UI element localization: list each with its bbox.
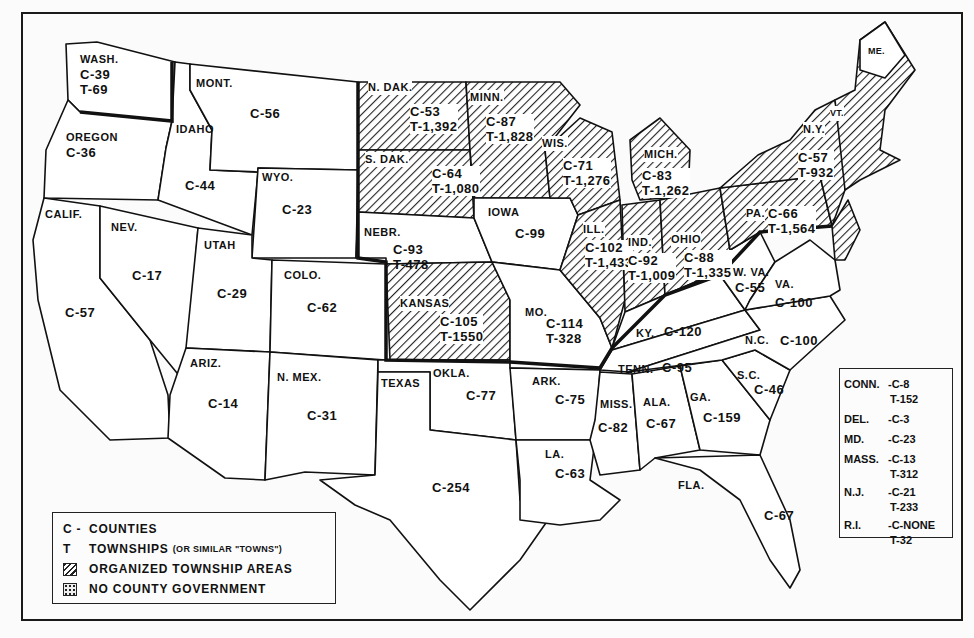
label-colo: COLO.	[284, 268, 321, 283]
label-ala: ALA.	[643, 395, 671, 410]
label-utah-count: C-29	[217, 286, 247, 301]
label-calif: CALIF.	[45, 207, 82, 222]
label-iowa-count: C-99	[515, 226, 545, 241]
label-fla: FLA.	[678, 478, 704, 493]
label-ark-count: C-75	[555, 392, 585, 407]
label-tenn-count: C-95	[662, 360, 692, 375]
label-ariz: ARIZ.	[190, 356, 221, 371]
label-ga: GA.	[690, 390, 711, 405]
label-nmex: N. MEX.	[277, 370, 321, 385]
label-kansas: KANSAS	[400, 296, 449, 311]
label-ndak: N. DAK.	[368, 80, 412, 95]
label-va: VA.	[775, 277, 794, 292]
label-vt: VT.	[830, 106, 844, 121]
label-minn-count: C-87T-1,828	[486, 114, 534, 144]
label-ny-count: C-57T-932	[798, 150, 834, 180]
label-nmex-count: C-31	[307, 408, 337, 423]
label-wva-count: C-55	[735, 280, 765, 295]
label-okla: OKLA.	[433, 366, 470, 381]
legend-counties: C -COUNTIES	[63, 519, 335, 539]
label-nebr: NEBR.	[364, 225, 401, 240]
label-ny: N.Y.	[803, 122, 825, 137]
label-idaho-count: C-44	[185, 178, 215, 193]
dotted-swatch-icon	[63, 583, 77, 596]
label-wash: WASH.C-39T-69	[80, 52, 119, 97]
label-mont-count: C-56	[250, 106, 280, 121]
label-mont: MONT.	[196, 76, 233, 91]
label-miss-count: C-82	[598, 420, 628, 435]
label-ark: ARK.	[532, 374, 561, 389]
label-wis: WIS.	[542, 136, 568, 151]
label-colo-count: C-62	[307, 300, 337, 315]
label-mich: MICH.	[644, 147, 678, 162]
label-nebr-count: C-93T-478	[393, 242, 429, 272]
label-minn: MINN.	[470, 90, 504, 105]
hatch-swatch-icon	[63, 563, 77, 576]
label-ga-count: C-159	[703, 410, 741, 425]
label-texas-count: C-254	[432, 480, 470, 495]
label-idaho: IDAHO	[176, 122, 214, 137]
label-ill: ILL.	[583, 222, 605, 237]
label-nc-count: C-100	[780, 333, 818, 348]
label-calif-count: C-57	[65, 305, 95, 320]
label-ala-count: C-67	[646, 416, 676, 431]
label-sc-count: C-46	[754, 382, 784, 397]
legend-townships: TTOWNSHIPS (OR SIMILAR "TOWNS")	[63, 539, 335, 559]
label-la: LA.	[545, 447, 564, 462]
label-fla-count: C-67	[764, 508, 794, 523]
label-mo-count: C-114T-328	[546, 316, 583, 346]
label-wva: W. VA.	[733, 265, 769, 280]
label-la-count: C-63	[555, 466, 585, 481]
label-wyo: WYO.	[262, 170, 293, 185]
legend-no-county-government: NO COUNTY GOVERNMENT	[63, 579, 335, 599]
label-nc: N.C.	[745, 333, 769, 348]
label-nev-count: C-17	[132, 268, 162, 283]
legend-organized-township-areas: ORGANIZED TOWNSHIP AREAS	[63, 559, 335, 579]
label-iowa: IOWA	[488, 205, 519, 220]
label-mich-count: C-83T-1,262	[642, 168, 690, 198]
label-pa: PA.	[746, 206, 765, 221]
label-ill-count: C-102T-1,433	[585, 240, 633, 270]
label-ky: KY.	[636, 326, 655, 341]
label-ohio-count: C-88T-1,335	[684, 250, 732, 280]
label-ariz-count: C-14	[208, 396, 238, 411]
label-pa-count: C-66T-1,564	[768, 206, 816, 236]
label-mo: MO.	[525, 305, 547, 320]
label-okla-count: C-77	[466, 388, 496, 403]
map-legend: C -COUNTIES TTOWNSHIPS (OR SIMILAR "TOWN…	[52, 512, 336, 604]
label-wis-count: C-71T-1,276	[563, 158, 611, 188]
label-sdak: S. DAK.	[365, 152, 409, 167]
label-miss: MISS.	[600, 397, 632, 412]
label-ohio: OHIO	[671, 232, 701, 247]
label-kansas-count: C-105T-1550	[440, 314, 483, 344]
label-ind-count: C-92T-1,009	[628, 253, 676, 283]
label-tenn: TENN.	[618, 362, 654, 377]
label-wyo-count: C-23	[282, 202, 312, 217]
label-utah: UTAH	[204, 238, 236, 253]
label-va-count: C-100	[775, 295, 813, 310]
label-nev: NEV.	[111, 220, 138, 235]
label-ndak-count: C-53T-1,392	[410, 104, 458, 134]
small-states-inset: CONN.- C-8 T-152 DEL.- C-3 MD.- C-23 MAS…	[839, 368, 953, 538]
label-ky-count: C-120	[664, 324, 702, 339]
label-texas: TEXAS	[381, 376, 420, 391]
label-sc: S.C.	[737, 368, 760, 383]
label-ind: IND.	[628, 235, 652, 250]
label-me: ME.	[868, 44, 885, 59]
label-sdak-count: C-64T-1,080	[432, 166, 480, 196]
label-oregon: OREGONC-36	[66, 130, 118, 160]
